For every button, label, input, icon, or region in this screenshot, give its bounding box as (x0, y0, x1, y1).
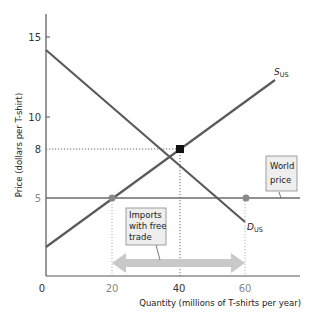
x-axis-label: Quantity (millions of T-shirts per year) (139, 298, 301, 308)
y-tick-8: 8 (35, 144, 41, 155)
svg-text:trade: trade (129, 232, 152, 242)
y-tick-15: 15 (28, 32, 41, 43)
demand-label: DUS (247, 222, 263, 234)
imports-callout: Imports with free trade (126, 208, 167, 260)
supply-label: SUS (274, 67, 289, 79)
equilibrium-point (176, 145, 184, 153)
y-tick-10: 10 (28, 112, 41, 123)
world-demand-point (243, 195, 250, 202)
y-tick-5: 5 (35, 193, 41, 204)
x-tick-0: 0 (39, 283, 45, 294)
x-tick-60: 60 (239, 283, 252, 294)
imports-arrow (112, 253, 245, 273)
svg-text:Imports: Imports (129, 210, 162, 220)
world-supply-point (109, 195, 116, 202)
y-axis-label: Price (dollars per T-shirt) (14, 93, 24, 198)
svg-text:with free: with free (129, 221, 167, 231)
chart: 15 10 8 5 Price (dollars per T-shirt) 0 … (0, 0, 318, 312)
x-tick-20: 20 (106, 283, 119, 294)
svg-text:price: price (270, 175, 291, 185)
demand-curve (46, 50, 245, 222)
x-tick-40: 40 (173, 283, 186, 294)
world-price-callout: World price (266, 156, 297, 198)
svg-text:World: World (270, 161, 294, 171)
